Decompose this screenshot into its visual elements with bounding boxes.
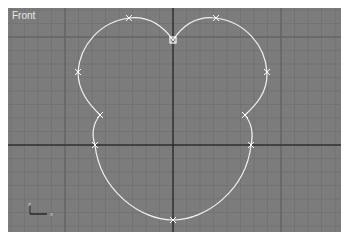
spline-vertex-icon[interactable] [242, 112, 248, 118]
gizmo-z-label: z [28, 201, 31, 207]
viewport-canvas[interactable] [8, 8, 341, 232]
spline-vertex-icon[interactable] [97, 112, 103, 118]
viewport-label[interactable]: Front [12, 10, 35, 21]
gizmo-x-label: x [50, 211, 53, 217]
front-viewport[interactable]: Front z x [8, 8, 341, 232]
